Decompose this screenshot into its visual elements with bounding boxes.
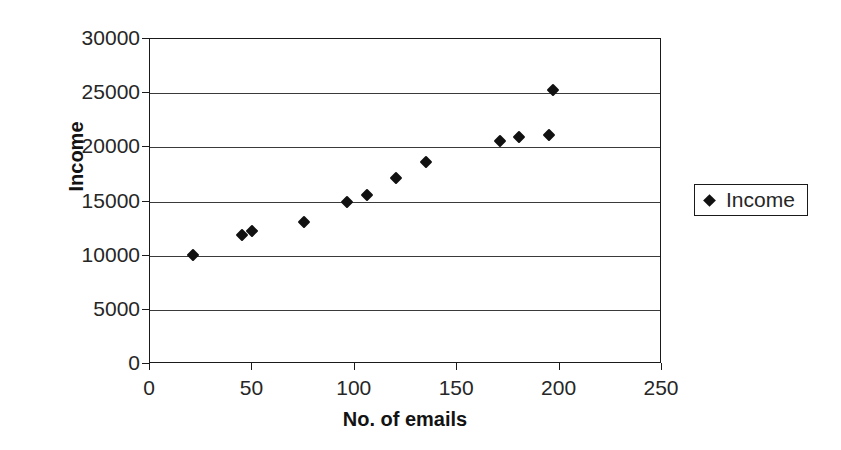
data-point-marker: [361, 189, 374, 202]
x-axis-tick: [661, 363, 662, 370]
x-axis-tick-label: 100: [314, 376, 394, 400]
x-axis-tick: [251, 363, 252, 370]
gridline: [150, 256, 660, 257]
data-point-marker: [340, 196, 353, 209]
scatter-chart-figure: 050001000015000200002500030000 No. of em…: [0, 0, 841, 450]
x-axis-tick: [559, 363, 560, 370]
data-point-marker: [389, 171, 402, 184]
y-axis-tick: [142, 38, 149, 39]
data-point-marker: [547, 84, 560, 97]
y-axis-tick-label: 25000: [40, 80, 140, 104]
legend-item-label: Income: [726, 188, 795, 212]
y-axis-tick: [142, 146, 149, 147]
y-axis-tick: [142, 255, 149, 256]
y-axis-tick: [142, 309, 149, 310]
gridline: [150, 93, 660, 94]
gridline: [150, 310, 660, 311]
legend: Income: [694, 184, 808, 216]
gridline: [150, 202, 660, 203]
y-axis-tick-label: 15000: [40, 189, 140, 213]
x-axis-title: No. of emails: [149, 408, 661, 431]
x-axis-tick-label: 200: [519, 376, 599, 400]
data-point-marker: [512, 131, 525, 144]
y-axis-tick: [142, 363, 149, 364]
data-point-marker: [297, 216, 310, 229]
data-point-marker: [543, 129, 556, 142]
x-axis-tick: [149, 363, 150, 370]
x-axis-tick-label: 250: [621, 376, 701, 400]
x-axis-tick-label: 50: [211, 376, 291, 400]
y-axis-tick-label: 0: [40, 351, 140, 375]
y-axis-tick: [142, 201, 149, 202]
y-axis-title: Income: [65, 87, 88, 227]
gridline: [150, 147, 660, 148]
x-axis-tick: [456, 363, 457, 370]
data-point-marker: [187, 249, 200, 262]
data-point-marker: [494, 134, 507, 147]
y-axis-tick-label: 20000: [40, 134, 140, 158]
plot-area: [149, 38, 661, 363]
x-axis-tick-label: 150: [416, 376, 496, 400]
diamond-marker-icon: [703, 194, 716, 207]
x-axis-tick: [354, 363, 355, 370]
y-axis-tick-label: 10000: [40, 243, 140, 267]
y-axis-tick-label: 30000: [40, 26, 140, 50]
y-axis-tick-label: 5000: [40, 297, 140, 321]
y-axis-tick: [142, 92, 149, 93]
data-point-marker: [420, 156, 433, 169]
x-axis-tick-label: 0: [109, 376, 189, 400]
